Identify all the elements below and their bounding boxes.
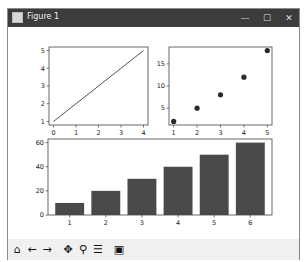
minimize-button[interactable]: — (236, 11, 254, 25)
x-tick-label: 5 (212, 219, 216, 227)
bar (200, 155, 229, 215)
x-tick-label: 1 (172, 129, 176, 137)
bar (236, 143, 265, 215)
x-tick-label: 2 (96, 129, 100, 137)
y-tick-label: 2 (41, 100, 45, 108)
bar (127, 179, 156, 215)
pan-icon[interactable]: ✥ (61, 242, 75, 257)
x-tick-label: 1 (68, 219, 72, 227)
zoom-magnifier-icon[interactable]: ⚲ (76, 242, 90, 257)
y-tick-label: 1 (41, 118, 45, 126)
save-icon[interactable]: ▣ (112, 242, 126, 257)
y-tick-label: 3 (41, 82, 45, 90)
figure-window: Figure 1 — ☐ ✕ 0123412345123455101512345… (7, 8, 300, 260)
y-tick-label: 20 (36, 187, 44, 195)
x-tick-label: 2 (195, 129, 199, 137)
y-tick-label: 15 (157, 60, 165, 68)
bar (164, 167, 193, 215)
y-tick-label: 4 (41, 65, 45, 73)
scatter-plot-axes (169, 47, 272, 125)
x-tick-label: 3 (119, 129, 123, 137)
y-tick-label: 60 (36, 139, 44, 147)
title-bar[interactable]: Figure 1 — ☐ ✕ (8, 9, 299, 27)
maximize-button[interactable]: ☐ (258, 11, 276, 25)
x-tick-label: 4 (242, 129, 246, 137)
x-tick-label: 3 (140, 219, 144, 227)
close-button[interactable]: ✕ (280, 11, 298, 25)
x-tick-label: 1 (74, 129, 78, 137)
x-tick-label: 4 (141, 129, 145, 137)
scatter-point (194, 106, 199, 111)
figure-plots: 012341234512345510151234560204060 (8, 27, 299, 239)
bar (55, 203, 84, 215)
bar (91, 191, 120, 215)
x-tick-label: 0 (51, 129, 55, 137)
forward-arrow-icon[interactable]: → (40, 242, 54, 257)
scatter-point (265, 48, 270, 53)
home-icon[interactable]: ⌂ (10, 242, 24, 257)
scatter-point (241, 75, 246, 80)
x-tick-label: 5 (265, 129, 269, 137)
app-icon (12, 12, 23, 23)
y-tick-label: 40 (36, 163, 44, 171)
navigation-toolbar: ⌂ ← → ✥ ⚲ ☰ ▣ (8, 239, 299, 260)
x-tick-label: 6 (248, 219, 252, 227)
y-tick-label: 0 (40, 211, 44, 219)
y-tick-label: 5 (41, 47, 45, 55)
back-arrow-icon[interactable]: ← (25, 242, 39, 257)
y-tick-label: 5 (161, 104, 165, 112)
x-tick-label: 4 (176, 219, 180, 227)
scatter-point (218, 92, 223, 97)
window-title: Figure 1 (27, 12, 59, 21)
x-tick-label: 2 (104, 219, 108, 227)
figure-canvas[interactable]: 012341234512345510151234560204060 (8, 27, 299, 239)
x-tick-label: 3 (218, 129, 222, 137)
scatter-point (171, 119, 176, 124)
configure-subplots-icon[interactable]: ☰ (91, 242, 105, 257)
y-tick-label: 10 (157, 82, 165, 90)
line-series (54, 51, 144, 122)
